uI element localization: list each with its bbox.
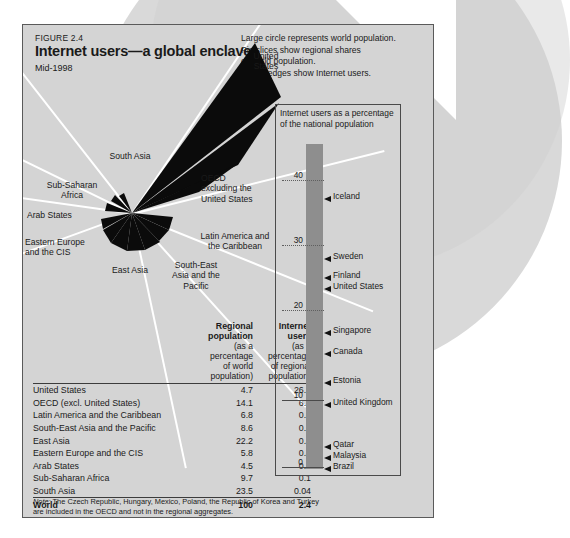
table-row: South-East Asia and the Pacific 8.6 0.5 [33,422,311,435]
pie-label-south-asia: South Asia [97,151,163,161]
bar-chart-title-line2: of the national population [280,119,400,130]
row-label: OECD (excl. United States) [33,397,195,410]
marker-label: Brazil [333,461,354,471]
marker-label: Qatar [333,439,354,449]
left-arrow-icon [324,466,331,472]
pie-label-eastern-europe-cis: Eastern Europeand the CIS [25,237,111,258]
pie-label-united-states: UnitedStates [243,51,289,72]
marker-label: Estonia [333,375,361,385]
left-arrow-icon [324,330,331,336]
axis-tick-label-30: 30 [281,235,303,245]
left-arrow-icon [324,444,331,450]
marker-label: Malaysia [333,450,366,460]
table-row: Latin America and the Caribbean 6.8 0.8 [33,409,311,422]
row-label: Latin America and the Caribbean [33,409,195,422]
left-arrow-icon [324,275,331,281]
table-body: United States 4.7 26.3 OECD (excl. Unite… [33,384,311,511]
axis-tick-30 [282,245,324,246]
row-regional-population: 23.5 [195,485,253,498]
pie-label-south-east-asia-pacific: South-EastAsia and thePacific [163,260,229,291]
table-row: OECD (excl. United States) 14.1 6.9 [33,397,311,410]
left-arrow-icon [324,196,331,202]
row-label: Arab States [33,460,195,473]
axis-tick-label-10: 10 [281,390,303,400]
row-regional-population: 6.8 [195,409,253,422]
row-regional-population: 9.7 [195,472,253,485]
footnotes: Note: The Czech Republic, Hungary, Mexic… [33,497,323,518]
pie-label-arab-states: Arab States [27,210,99,220]
row-internet-users: 0.04 [253,485,311,498]
axis-tick-0 [282,467,324,468]
left-arrow-icon [324,286,331,292]
marker-label: United States [333,281,383,291]
row-regional-population: 14.1 [195,397,253,410]
marker-label: United Kingdom [333,397,393,407]
data-table: Regionalpopulation (as a percentageof wo… [33,321,311,511]
pie-dark-wedges [101,43,281,251]
bar-chart-title-line1: Internet users as a percentage [280,108,400,119]
note-label: Note: [33,497,51,506]
row-label: United States [33,384,195,397]
row-label: Eastern Europe and the CIS [33,447,195,460]
note-text: The Czech Republic, Hungary, Mexico, Pol… [33,497,319,516]
table-row: Arab States 4.5 0.2 [33,460,311,473]
table-header-label [33,321,195,384]
left-arrow-icon [324,351,331,357]
pie-label-oecd: OECDexcluding theUnited States [201,173,275,204]
row-label: South Asia [33,485,195,498]
axis-tick-40 [282,180,324,181]
left-arrow-icon [324,380,331,386]
row-label: Sub-Saharan Africa [33,472,195,485]
table-row: Sub-Saharan Africa 9.7 0.1 [33,472,311,485]
row-regional-population: 22.2 [195,434,253,447]
marker-label: Canada [333,346,362,356]
note-line: Note: The Czech Republic, Hungary, Mexic… [33,497,323,516]
table-row: East Asia 22.2 0.4 [33,434,311,447]
bar-chart-title: Internet users as a percentage of the na… [280,108,400,129]
scale-bar [306,144,323,469]
marker-label: Singapore [333,325,371,335]
pie-label-latin-america-caribbean: Latin America andthe Caribbean [183,231,287,252]
axis-tick-label-20: 20 [281,300,303,310]
left-arrow-icon [324,402,331,408]
axis-tick-label-40: 40 [281,170,303,180]
row-regional-population: 4.7 [195,384,253,397]
row-regional-population: 5.8 [195,447,253,460]
row-label: East Asia [33,434,195,447]
marker-label: Iceland [333,191,360,201]
table-row: Eastern Europe and the CIS 5.8 0.4 [33,447,311,460]
row-regional-population: 4.5 [195,460,253,473]
marker-label: Sweden [333,251,363,261]
axis-tick-10 [282,400,324,401]
marker-label: Finland [333,270,360,280]
pie-label-east-asia: East Asia [99,265,161,275]
pie-label-sub-saharan-africa: Sub-SaharanAfrica [33,180,111,201]
left-arrow-icon [324,256,331,262]
axis-tick-label-0: 0 [281,457,303,467]
row-regional-population: 8.6 [195,422,253,435]
row-label: South-East Asia and the Pacific [33,422,195,435]
table-row: United States 4.7 26.3 [33,384,311,397]
axis-tick-20 [282,310,324,311]
left-arrow-icon [324,455,331,461]
table-header-regional-population: Regionalpopulation (as a percentageof wo… [195,321,253,384]
table-row: South Asia 23.5 0.04 [33,485,311,498]
